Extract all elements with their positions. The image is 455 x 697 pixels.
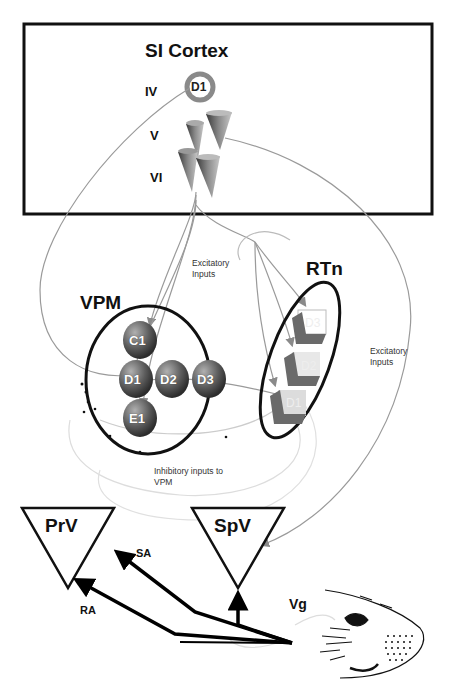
- whisker-pad-dots: [385, 635, 413, 661]
- layer-v-label: V: [150, 128, 159, 143]
- rtn-title: RTn: [306, 258, 343, 280]
- excitatory-inputs-label: Excitatory Inputs: [192, 258, 242, 280]
- inhibitory-inputs-label: Inhibitory inputs to VPM: [154, 466, 230, 488]
- rtn-cell-d3: D3: [305, 316, 320, 330]
- sa-pathway-label: SA: [136, 547, 151, 559]
- afferent-pathways: [82, 556, 292, 643]
- layer-iv-label: IV: [145, 84, 157, 99]
- vg-label: Vg: [289, 596, 307, 612]
- rtn-cell-d2: D2: [301, 359, 316, 373]
- layer4-cell-label: D1: [191, 80, 206, 94]
- ra-pathway-label: RA: [80, 604, 96, 616]
- barreloid-e1: E1: [129, 411, 145, 426]
- barreloid-d1: D1: [124, 372, 141, 387]
- barreloid-d3: D3: [197, 372, 214, 387]
- rat-head-icon: [320, 590, 424, 678]
- spv-label: SpV: [214, 515, 251, 537]
- thalamocortical-circuit-diagram: SI Cortex IV V VI D1 VPM C1 D1 D2 D3 E1 …: [0, 0, 455, 697]
- layer-vi-label: VI: [150, 170, 162, 185]
- pyramidal-cells: [178, 110, 232, 198]
- rtn-cell-d1: D1: [286, 396, 301, 410]
- vpm-title: VPM: [80, 292, 121, 314]
- cortex-title: SI Cortex: [145, 40, 228, 62]
- barreloid-c1: C1: [129, 333, 146, 348]
- prv-label: PrV: [45, 515, 78, 537]
- barreloid-d2: D2: [160, 372, 177, 387]
- excitatory-inputs-right-label: Excitatory Inputs: [370, 346, 424, 368]
